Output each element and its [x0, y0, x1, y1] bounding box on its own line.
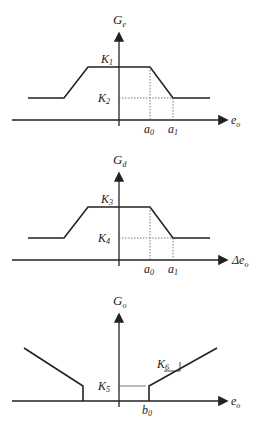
x-axis-label: eo	[231, 394, 240, 410]
tick-a1: a1	[168, 262, 178, 277]
tick-a0: a0	[144, 262, 154, 277]
level-k4: K4	[97, 231, 110, 246]
diagram-canvas: Ge eo K1 K2 a0 a1 Gd Δeo K3 K4 a0 a1 Go …	[0, 0, 267, 424]
tick-a0: a0	[144, 122, 154, 137]
x-axis-label: Δeo	[231, 253, 248, 269]
tick-b0: b0	[142, 403, 152, 418]
slope-k6: K6	[156, 357, 169, 372]
right-branch	[149, 348, 217, 401]
level-k3: K3	[100, 192, 113, 207]
level-k2: K2	[97, 91, 110, 106]
level-k5: K5	[97, 379, 110, 394]
chart-ge: Ge eo K1 K2 a0 a1	[12, 12, 240, 137]
tick-a1: a1	[168, 122, 178, 137]
y-axis-label: Go	[113, 293, 126, 310]
chart-go: Go eo K5 K6 b0	[12, 293, 240, 418]
y-axis-label: Gd	[113, 152, 127, 169]
chart-gd: Gd Δeo K3 K4 a0 a1	[12, 152, 248, 277]
level-k1: K1	[100, 52, 113, 67]
x-axis-label: eo	[231, 113, 240, 129]
y-axis-label: Ge	[113, 12, 126, 29]
left-branch	[24, 348, 83, 401]
